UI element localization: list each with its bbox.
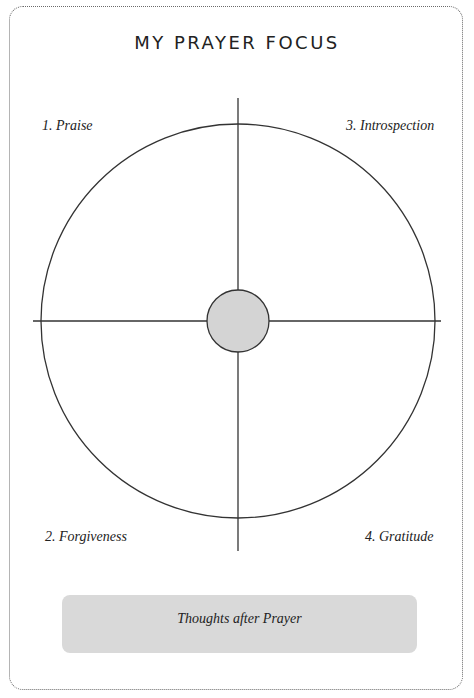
center-circle <box>207 290 269 352</box>
quadrant-label-gratitude: 4. Gratitude <box>365 529 433 545</box>
quadrant-label-introspection: 3. Introspection <box>346 118 434 134</box>
quadrant-label-forgiveness: 2. Forgiveness <box>45 529 127 545</box>
quadrant-label-praise: 1. Praise <box>42 118 93 134</box>
thoughts-after-prayer-label: Thoughts after Prayer <box>62 611 417 627</box>
prayer-focus-diagram <box>0 0 474 698</box>
thoughts-after-prayer-box: Thoughts after Prayer <box>62 595 417 653</box>
